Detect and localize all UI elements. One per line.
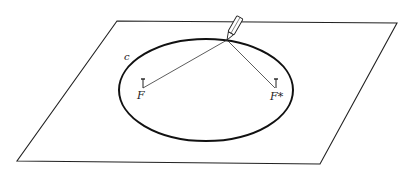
- string-to-focus-1: [143, 40, 227, 88]
- focus-1-label: F: [136, 89, 145, 102]
- pin-focus-2: [274, 79, 278, 88]
- focus-2-label: F*: [269, 90, 284, 103]
- ellipse-curve: [119, 39, 293, 141]
- ellipse-construction-diagram: c F F*: [0, 0, 409, 175]
- paper-sheet: [17, 21, 397, 164]
- pin-focus-1: [141, 79, 145, 88]
- pencil-icon: [224, 16, 243, 42]
- curve-label: c: [124, 51, 130, 62]
